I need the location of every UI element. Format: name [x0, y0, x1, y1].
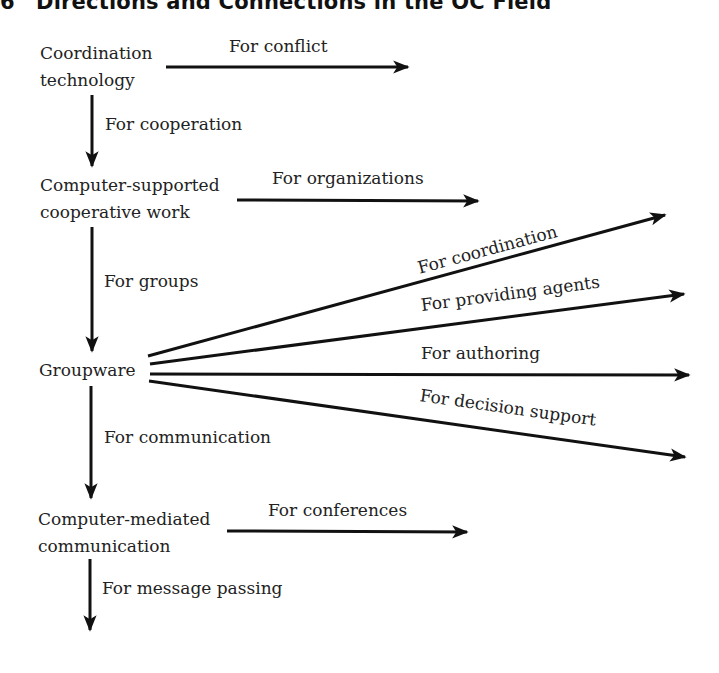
label-for-conferences: For conferences — [268, 500, 407, 520]
label-for-organizations: For organizations — [272, 168, 424, 188]
label-for-cooperation: For cooperation — [105, 114, 242, 134]
label-for-authoring: For authoring — [421, 343, 540, 363]
label-for-conflict: For conflict — [229, 36, 327, 56]
arrow-for-organizations — [237, 200, 478, 201]
label-for-communication: For communication — [104, 427, 271, 447]
node-line: Computer-supported — [40, 172, 220, 199]
node-groupware: Groupware — [39, 357, 136, 384]
label-for-groups: For groups — [104, 271, 198, 291]
node-cscw: Computer-supported cooperative work — [40, 172, 220, 226]
node-cmc: Computer-mediated communication — [38, 506, 210, 560]
arrow-for-conferences — [227, 531, 467, 532]
node-line: technology — [40, 67, 152, 94]
node-line: Coordination — [40, 40, 152, 67]
node-line: communication — [38, 533, 210, 560]
node-line: cooperative work — [40, 199, 220, 226]
node-coordination-technology: Coordination technology — [40, 40, 152, 94]
arrow-for-providing-agents — [150, 294, 684, 364]
label-for-message-passing: For message passing — [102, 578, 282, 598]
arrow-for-authoring — [150, 374, 689, 375]
diagram-edges — [0, 0, 719, 673]
node-line: Groupware — [39, 357, 136, 384]
node-line: Computer-mediated — [38, 506, 210, 533]
